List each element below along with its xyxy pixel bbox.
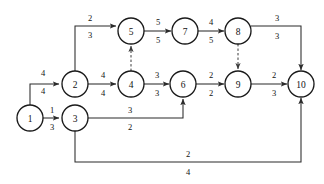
edge-label-lower-3-10: 4 xyxy=(186,167,191,177)
edge-label-upper-6-9: 2 xyxy=(209,70,213,80)
node-2[interactable]: 2 xyxy=(62,71,88,97)
edge-label-lower-2-5: 3 xyxy=(88,30,92,40)
nodes-layer: 12345678910 xyxy=(17,18,314,131)
node-4[interactable]: 4 xyxy=(118,71,144,97)
node-3[interactable]: 3 xyxy=(62,105,88,131)
edge-2-to-5 xyxy=(75,26,116,71)
edge-label-lower-7-8: 5 xyxy=(209,35,213,45)
node-label-10: 10 xyxy=(296,80,306,90)
edge-label-upper-2-4: 4 xyxy=(101,70,106,80)
edge-label-upper-2-5: 2 xyxy=(88,13,92,23)
node-label-2: 2 xyxy=(73,80,78,90)
network-diagram-svg: 441323445545333222332324 12345678910 xyxy=(0,0,324,184)
edge-label-lower-3-6: 2 xyxy=(128,122,132,132)
edge-label-upper-8-10: 3 xyxy=(275,13,279,23)
node-label-7: 7 xyxy=(183,27,188,37)
node-8[interactable]: 8 xyxy=(225,18,251,44)
edge-label-upper-3-6: 3 xyxy=(128,105,132,115)
edge-label-lower-8-10: 3 xyxy=(275,31,279,41)
edge-3-to-6 xyxy=(88,99,183,118)
node-5[interactable]: 5 xyxy=(118,18,144,44)
node-label-5: 5 xyxy=(129,27,134,37)
node-9[interactable]: 9 xyxy=(225,71,251,97)
edge-label-lower-1-3: 3 xyxy=(50,122,54,132)
edge-label-upper-7-8: 4 xyxy=(209,17,214,27)
node-label-3: 3 xyxy=(73,114,78,124)
edge-label-lower-4-6: 3 xyxy=(155,88,159,98)
node-7[interactable]: 7 xyxy=(172,18,198,44)
node-label-1: 1 xyxy=(28,114,33,124)
node-1[interactable]: 1 xyxy=(17,105,43,131)
edge-label-lower-2-4: 4 xyxy=(101,88,106,98)
edge-label-upper-1-2: 4 xyxy=(41,68,46,78)
edge-label-lower-5-7: 5 xyxy=(156,35,160,45)
node-6[interactable]: 6 xyxy=(170,71,196,97)
node-label-8: 8 xyxy=(236,27,241,37)
edge-label-lower-9-10: 3 xyxy=(272,88,276,98)
edge-label-upper-1-3: 1 xyxy=(50,105,54,115)
edge-label-lower-6-9: 2 xyxy=(209,88,213,98)
edge-label-upper-9-10: 2 xyxy=(272,70,276,80)
edge-label-lower-1-2: 4 xyxy=(41,86,46,96)
edge-label-upper-4-6: 3 xyxy=(155,70,159,80)
node-label-4: 4 xyxy=(129,80,134,90)
edge-label-upper-3-10: 2 xyxy=(186,149,190,159)
node-label-9: 9 xyxy=(236,80,241,90)
node-label-6: 6 xyxy=(181,80,186,90)
edge-label-upper-5-7: 5 xyxy=(156,17,160,27)
node-10[interactable]: 10 xyxy=(288,71,314,97)
network-diagram-canvas: 441323445545333222332324 12345678910 xyxy=(0,0,324,184)
